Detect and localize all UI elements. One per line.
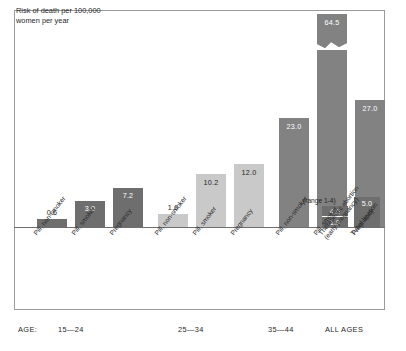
age-group-35-44: 35—44	[268, 325, 294, 334]
plot-area: 0.6 3.0 7.2 1.6 10.2 12.0 23.0 64.5 27.0…	[14, 10, 385, 228]
bar-value-label: 7.2	[113, 191, 143, 200]
age-group-all-ages: ALL AGES	[325, 325, 363, 334]
age-group-25-34: 25—34	[178, 325, 204, 334]
bar-pill-smoker-35-44[interactable]: 64.5	[317, 14, 347, 228]
bar-value-label: 10.2	[196, 178, 226, 187]
bar-value-label: 64.5	[317, 18, 347, 27]
age-caption: AGE:	[18, 325, 37, 334]
bar-value-label: 23.0	[279, 122, 309, 131]
bar-value-label: 12.0	[234, 168, 264, 177]
age-group-15-24: 15—24	[58, 325, 84, 334]
bar-value-label: 27.0	[355, 104, 385, 113]
axis-break-icon	[317, 40, 347, 50]
